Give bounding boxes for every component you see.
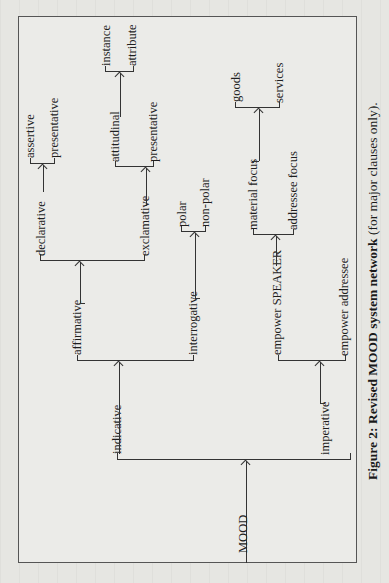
bracket-declarative-left	[30, 158, 31, 164]
bracket-empower-speaker	[253, 234, 293, 235]
edge-interrogative-join	[195, 298, 200, 299]
edge-affirmative-join	[80, 303, 85, 304]
bracket-declarative	[30, 163, 54, 164]
figure-frame	[18, 16, 357, 563]
figure-caption: Figure 2: Revised MOOD system network (f…	[365, 102, 381, 480]
bracket-exclamative	[115, 166, 153, 167]
node-assertive: assertive	[24, 114, 37, 158]
node-empower-speaker: empower SPEAKER	[271, 250, 284, 355]
node-instance: instance	[100, 25, 113, 66]
node-imperative: imperative	[319, 402, 332, 455]
edge-imperative-join	[320, 403, 325, 404]
bracket-affirmative	[40, 260, 144, 261]
bracket-mood-left	[117, 453, 118, 460]
node-addressee-focus: addressee focus	[287, 151, 300, 230]
bracket-attitudinal-right	[133, 66, 134, 72]
bracket-attitudinal-left	[105, 66, 106, 72]
node-services: services	[273, 63, 286, 103]
bracket-material-focus	[235, 107, 279, 108]
node-presentative-declarative: presentative	[48, 98, 61, 158]
edge-material-focus-join	[252, 161, 259, 162]
node-interrogative: interrogative	[187, 291, 200, 355]
bracket-indicative-left	[77, 355, 78, 361]
node-non-polar: non-polar	[199, 178, 212, 227]
bracket-mood-right	[350, 453, 351, 460]
bracket-attitudinal	[105, 71, 133, 72]
edge-interrogative-stem	[195, 233, 196, 298]
node-polar: polar	[176, 201, 189, 227]
node-declarative: declarative	[35, 201, 48, 256]
figure-caption-normal: (for major clauses only).	[365, 102, 380, 238]
node-goods: goods	[230, 72, 243, 102]
bracket-declarative-right	[54, 158, 55, 164]
bracket-imperative	[278, 360, 345, 361]
bracket-mood	[117, 459, 350, 460]
node-mood: MOOD	[237, 515, 250, 553]
figure-caption-bold: Figure 2: Revised MOOD system network	[365, 238, 380, 480]
edge-indicative-long	[119, 406, 120, 454]
bracket-material-focus-left	[235, 102, 236, 108]
node-material-focus: material focus	[247, 159, 260, 230]
node-empower-addressee: empower addressee	[338, 258, 351, 356]
node-attitudinal: attitudinal	[109, 111, 122, 162]
bracket-imperative-left	[278, 355, 279, 361]
bracket-interrogative	[181, 231, 205, 232]
node-presentative-exclamative: presentative	[147, 102, 160, 162]
node-attribute: attribute	[126, 24, 139, 66]
bracket-indicative	[77, 360, 193, 361]
bracket-indicative-right	[193, 355, 194, 361]
node-indicative: indicative	[111, 405, 124, 454]
node-affirmative: affirmative	[71, 300, 84, 355]
